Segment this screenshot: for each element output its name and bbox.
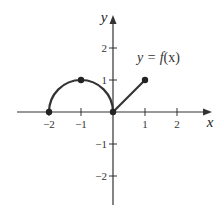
y-tick-label-neg2: −2 — [95, 170, 107, 182]
line-segment — [113, 80, 145, 112]
x-axis-label: x — [206, 114, 214, 130]
function-label-arg: (x) — [164, 50, 181, 66]
function-label-prefix: y = — [135, 50, 160, 65]
point-neg1-1 — [78, 77, 84, 83]
y-axis-arrow-icon — [110, 15, 117, 24]
function-graph: −2 −1 1 2 2 1 −1 −2 x y y = f(x) — [0, 0, 224, 215]
point-origin — [110, 109, 116, 115]
y-tick-label-2: 2 — [102, 42, 108, 54]
x-tick-label-2: 2 — [174, 118, 180, 130]
x-tick-label-1: 1 — [142, 118, 148, 130]
point-1-1 — [142, 77, 148, 83]
function-label: y = f(x) — [135, 50, 180, 66]
y-tick-label-1: 1 — [102, 74, 108, 86]
y-tick-label-neg1: −1 — [95, 138, 107, 150]
x-tick-label-neg1: −1 — [75, 118, 87, 130]
x-tick-label-neg2: −2 — [43, 118, 55, 130]
y-axis-label: y — [99, 9, 108, 25]
point-neg2-0 — [46, 109, 52, 115]
